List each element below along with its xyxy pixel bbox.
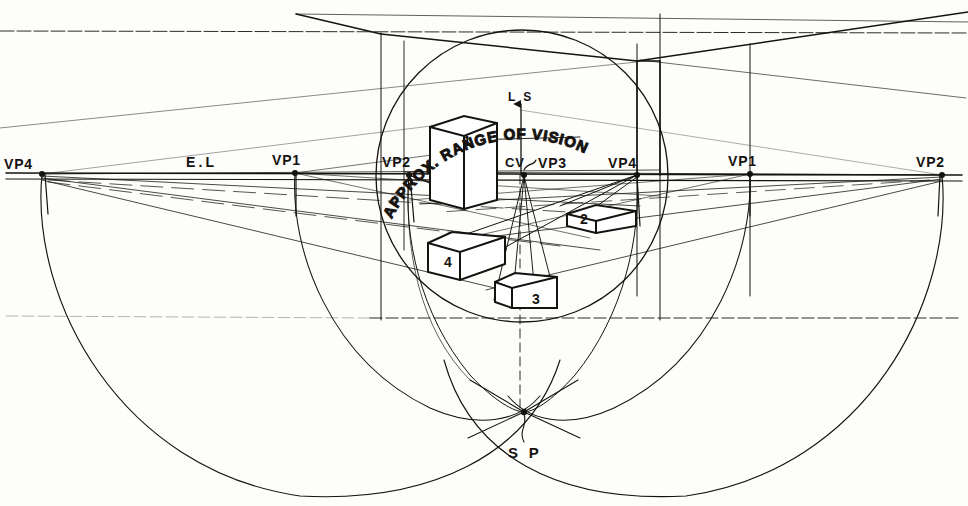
- lower-band-line-left: [6, 316, 372, 318]
- top-construction-line: [0, 31, 968, 33]
- block-3-shape: [495, 273, 557, 308]
- label-station-point: S P: [508, 444, 542, 461]
- label-eye-level: E.L: [186, 154, 217, 170]
- label-vp1-left: VP1: [272, 152, 301, 168]
- label-vp4-left: VP4: [4, 156, 33, 172]
- ceiling-structure: [296, 12, 968, 175]
- label-block-4: 4: [444, 254, 453, 270]
- ground-arc-left: [41, 174, 560, 497]
- rays-from-vp2-right-dashed: [440, 180, 930, 212]
- sp-leader: [522, 414, 525, 442]
- label-block-1: 1: [463, 133, 472, 149]
- block-4-shape: [428, 232, 505, 280]
- label-block-2: 2: [580, 211, 589, 227]
- label-vp2-right: VP2: [916, 154, 945, 170]
- block-2-shape: [567, 205, 636, 233]
- label-center-of-vision: CV: [505, 155, 525, 170]
- label-vp4-right: VP4: [608, 155, 637, 171]
- label-vp3-center: VP3: [538, 155, 567, 171]
- label-line-of-sight: L S: [508, 90, 534, 104]
- diagram-canvas: APPROX. RANGE OF VISION VP4 VP1 VP2 VP3 …: [0, 0, 968, 506]
- label-block-3: 3: [532, 291, 541, 307]
- label-vp2-left: VP2: [382, 154, 411, 170]
- label-vp1-right: VP1: [728, 153, 757, 169]
- cv-leader: [524, 160, 536, 170]
- perspective-drawing: APPROX. RANGE OF VISION: [0, 0, 968, 506]
- station-point-dot: [521, 409, 527, 415]
